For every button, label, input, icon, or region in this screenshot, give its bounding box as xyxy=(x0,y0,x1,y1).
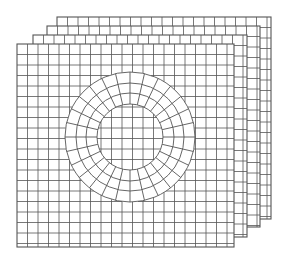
sheet-1-front xyxy=(17,44,234,247)
diagram-canvas xyxy=(0,0,285,261)
mesh-diagram xyxy=(0,0,285,261)
